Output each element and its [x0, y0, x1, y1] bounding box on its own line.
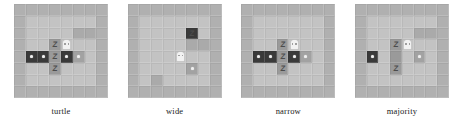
player-avatar-icon	[63, 40, 70, 49]
map-tile-wall	[151, 86, 163, 98]
map-tile-wall	[265, 86, 277, 98]
map-tile-wall	[96, 75, 108, 87]
map-tile-floor	[425, 63, 437, 75]
map-tile-wall	[38, 4, 50, 16]
map-tile-floor	[402, 16, 414, 28]
map-tile-wall	[128, 4, 140, 16]
map-tile-wall	[96, 86, 108, 98]
map-tile-wall	[163, 4, 175, 16]
map-tile-wall	[253, 86, 265, 98]
map-tile-floor	[139, 75, 151, 87]
map-tile-floor	[277, 16, 289, 28]
map-tile-floor	[139, 16, 151, 28]
panel-caption: wide	[166, 106, 183, 116]
map-tile-floor	[288, 28, 300, 40]
map-tile-floor	[139, 51, 151, 63]
map-tile-floor	[85, 75, 97, 87]
map-tile-floor	[378, 28, 390, 40]
enemy-icon: Z	[49, 51, 62, 63]
map-tile-floor	[163, 75, 175, 87]
map-tile-floor	[300, 75, 312, 87]
map-tile-floor	[163, 28, 175, 40]
map-tile-floor	[253, 16, 265, 28]
map-tile-floor	[312, 39, 324, 51]
map-tile-floor	[175, 63, 187, 75]
map-tile-floor	[253, 39, 265, 51]
map-tile-floor	[425, 16, 437, 28]
map-tile-floor	[151, 39, 163, 51]
map-tile-wall	[355, 4, 367, 16]
map-tile-floor	[265, 28, 277, 40]
map-tile-dark: Z	[186, 28, 198, 40]
map-tile-wall	[128, 75, 140, 87]
map-tile-floor	[26, 39, 38, 51]
map-tile-wall	[49, 4, 61, 16]
map-tile-wall	[26, 86, 38, 98]
map-tile-floor	[73, 63, 85, 75]
map-tile-wall	[312, 4, 324, 16]
map-tile-wall	[355, 28, 367, 40]
map-tile-wall	[175, 4, 187, 16]
map-tile-floor	[61, 28, 73, 40]
map-tile-floor	[151, 63, 163, 75]
map-tile-floor	[38, 16, 50, 28]
map-tile-floor	[367, 39, 379, 51]
map-tile-wall	[355, 39, 367, 51]
map-tile-wall	[38, 86, 50, 98]
map-tile-dark	[26, 51, 38, 63]
map-tile-floor	[186, 51, 198, 63]
map-tile-dark	[253, 51, 265, 63]
map-tile-wall	[85, 86, 97, 98]
map-tile-wall	[288, 4, 300, 16]
map-tile-wall	[355, 86, 367, 98]
map-tile-floor	[312, 51, 324, 63]
map-tile-wall	[14, 51, 26, 63]
map-tile-wall	[300, 86, 312, 98]
map-tile-floor	[198, 51, 210, 63]
map-tile-mid2	[414, 51, 426, 63]
map-tile-wall	[425, 4, 437, 16]
map-tile-wall	[210, 16, 222, 28]
map-tile-wall	[324, 51, 336, 63]
map-tile-wall	[128, 63, 140, 75]
map-tile-wall	[96, 28, 108, 40]
map-tile-floor	[49, 16, 61, 28]
map-tile-wall	[96, 51, 108, 63]
map-tile-wall	[324, 39, 336, 51]
map-tile-wall	[390, 4, 402, 16]
map-tile-wall	[241, 75, 253, 87]
map-tile-floor	[300, 63, 312, 75]
map-tile-wall	[198, 4, 210, 16]
map-tile-floor	[26, 63, 38, 75]
map-tile-wall	[61, 4, 73, 16]
enemy-icon: Z	[276, 51, 289, 63]
map-tile-wall	[128, 86, 140, 98]
map-tile-wall	[355, 51, 367, 63]
map-tile-wall	[265, 4, 277, 16]
map-tile-floor	[73, 16, 85, 28]
map-tile-wall	[324, 16, 336, 28]
map-tile-wall	[241, 51, 253, 63]
map-tile-wall	[14, 75, 26, 87]
panel-caption: narrow	[276, 106, 301, 116]
map-tile-wall	[437, 39, 449, 51]
enemy-icon: Z	[276, 39, 289, 51]
treasure-icon	[293, 55, 296, 58]
map-tile-floor	[312, 75, 324, 87]
map-tile-wall	[437, 28, 449, 40]
map-tile-wall2	[414, 28, 426, 40]
map-tile-wall	[128, 16, 140, 28]
map-tile-wall	[355, 63, 367, 75]
map-tile-hero	[402, 39, 414, 51]
map-tile-dark	[288, 51, 300, 63]
map-tile-floor	[198, 28, 210, 40]
map-tile-wall	[139, 4, 151, 16]
map-tile-wall	[437, 86, 449, 98]
map-tile-floor	[312, 16, 324, 28]
map-tile-wall	[324, 86, 336, 98]
map-tile-floor	[277, 28, 289, 40]
map-tile-wall	[139, 86, 151, 98]
map-tile-wall2	[186, 39, 198, 51]
map-tile-floor	[61, 75, 73, 87]
map-tile-floor	[312, 63, 324, 75]
